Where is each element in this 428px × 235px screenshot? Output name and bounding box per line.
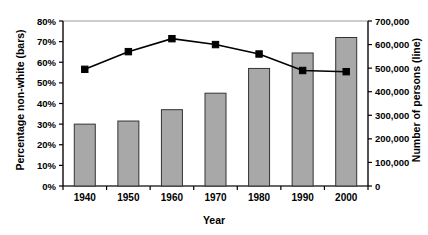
line-series-marker [256,51,262,57]
x-axis-title: Year [0,214,428,226]
line-series-marker [299,67,305,73]
y-axis-right-tick-label: 500,000 [375,63,409,74]
x-axis-tick-label: 1960 [161,192,184,203]
bar [336,38,357,187]
chart-container: Percentage non-white (bars) Number of pe… [0,0,428,235]
x-axis-tick-label: 1950 [117,192,140,203]
y-axis-right-tick-label: 700,000 [375,16,409,27]
y-axis-left-tick-label: 0% [42,181,56,192]
line-series-marker [125,48,131,54]
y-axis-right-tick-label: 300,000 [375,110,409,121]
x-axis-tick-label: 1940 [74,192,97,203]
y-axis-right-tick-label: 200,000 [375,133,409,144]
line-series-marker [169,35,175,41]
bar [74,124,95,186]
y-axis-left-tick-label: 40% [37,98,57,109]
y-axis-left-title: Percentage non-white (bars) [14,10,28,190]
y-axis-left-tick-label: 20% [37,139,57,150]
x-axis-tick-label: 1990 [292,192,315,203]
x-axis-tick-label: 1980 [248,192,271,203]
x-axis-tick-label: 2000 [335,192,358,203]
y-axis-left-tick-label: 10% [37,160,57,171]
y-axis-left-tick-label: 80% [37,16,57,27]
y-axis-left-tick-label: 30% [37,119,57,130]
y-axis-right-tick-label: 400,000 [375,86,409,97]
y-axis-right-title: Number of persons (line) [410,10,424,190]
bar [118,121,139,186]
y-axis-left-tick-label: 70% [37,36,57,47]
chart-plot-area: 0%10%20%30%40%50%60%70%80%0100,000200,00… [0,0,428,235]
y-axis-right-tick-label: 0 [375,181,380,192]
line-series-marker [343,68,349,74]
y-axis-left-tick-label: 60% [37,57,57,68]
bar [161,110,182,186]
x-axis-tick-label: 1970 [204,192,227,203]
bar [205,93,226,186]
y-axis-right-tick-label: 600,000 [375,39,409,50]
line-series-marker [82,66,88,72]
y-axis-left-tick-label: 50% [37,77,57,88]
line-series-marker [212,41,218,47]
y-axis-right-tick-label: 100,000 [375,157,409,168]
bar [249,68,270,186]
